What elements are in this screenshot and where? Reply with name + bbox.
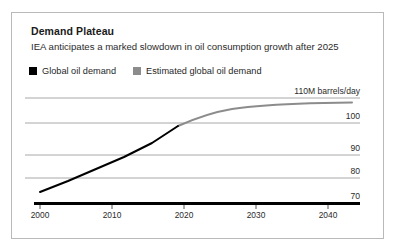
chart-subtitle: IEA anticipates a marked slowdown in oil… <box>31 41 339 52</box>
y-tick-80: 80 <box>300 166 360 176</box>
x-tick-label-2010: 2010 <box>92 210 132 220</box>
legend-item-actual: Global oil demand <box>29 66 116 76</box>
y-axis-unit-label: 110M barrels/day <box>258 86 360 96</box>
x-tick-label-2000: 2000 <box>20 210 60 220</box>
chart-legend: Global oil demand Estimated global oil d… <box>29 66 262 76</box>
chart-title: Demand Plateau <box>31 25 114 37</box>
gray-square-icon <box>133 67 141 75</box>
y-tick-100: 100 <box>300 111 360 121</box>
black-square-icon <box>29 67 37 75</box>
legend-item-estimate: Estimated global oil demand <box>133 66 261 76</box>
y-tick-90: 90 <box>300 143 360 153</box>
x-tick-label-2030: 2030 <box>236 210 276 220</box>
chart-card: Demand Plateau IEA anticipates a marked … <box>11 12 384 239</box>
legend-label-estimate: Estimated global oil demand <box>146 66 261 76</box>
x-tick-label-2020: 2020 <box>164 210 204 220</box>
y-tick-70: 70 <box>300 191 360 201</box>
x-tick-label-2040: 2040 <box>308 210 348 220</box>
legend-label-actual: Global oil demand <box>42 66 116 76</box>
